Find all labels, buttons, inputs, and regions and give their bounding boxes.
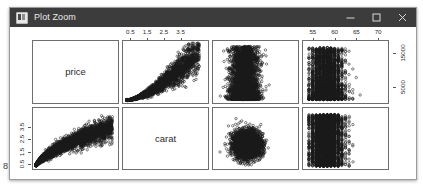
panel-carat-vs-x3[interactable] <box>212 107 299 171</box>
point-cloud <box>303 41 388 103</box>
panel-carat-diagonal[interactable]: carat <box>122 107 209 171</box>
stray-glyph: 8 <box>3 162 8 171</box>
window-title: Plot Zoom <box>34 8 76 27</box>
tick-mark <box>28 164 31 165</box>
minimize-button[interactable] <box>337 8 363 27</box>
tick-label: 1.5 <box>19 147 25 156</box>
point-cloud <box>213 108 298 170</box>
panel-price-vs-carat[interactable] <box>122 40 209 104</box>
tick-mark <box>28 139 31 140</box>
point-cloud <box>33 108 118 170</box>
maximize-icon <box>372 13 381 22</box>
panel-price-diagonal[interactable]: price <box>32 40 119 104</box>
panel-price-vs-depth[interactable] <box>302 40 389 104</box>
panel-price-vs-x3[interactable] <box>212 40 299 104</box>
tick-label: 3.5 <box>19 123 25 132</box>
window-controls <box>337 8 416 27</box>
plot-window-icon <box>16 12 28 24</box>
scatterplot-matrix: 0.51.52.53.5 55606570 500015000 0.51.52.… <box>10 27 416 179</box>
close-icon <box>398 13 407 22</box>
screenshot-root: 8 Plot Zoom <box>0 0 423 190</box>
diagonal-label-carat: carat <box>155 133 176 144</box>
panel-carat-vs-price[interactable] <box>32 107 119 171</box>
diagonal-label-price: price <box>65 66 86 77</box>
tick-mark <box>28 127 31 128</box>
title-bar[interactable]: Plot Zoom <box>10 8 416 27</box>
tick-label: 2.5 <box>19 135 25 144</box>
point-cloud <box>303 108 388 170</box>
tick-label: 0.5 <box>19 160 25 169</box>
close-button[interactable] <box>389 8 416 27</box>
panel-carat-vs-depth[interactable] <box>302 107 389 171</box>
point-cloud <box>123 41 208 103</box>
minimize-icon <box>346 13 355 22</box>
point-cloud <box>213 41 298 103</box>
plot-zoom-window: Plot Zoom <box>9 7 417 180</box>
maximize-button[interactable] <box>363 8 389 27</box>
tick-mark <box>28 152 31 153</box>
